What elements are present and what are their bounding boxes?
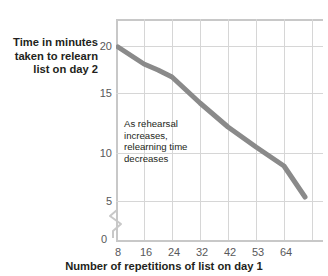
x-axis-title: Number of repetitions of list on day 1 — [0, 260, 328, 272]
y-axis-break-icon — [107, 204, 125, 238]
relearning-time-line — [118, 47, 305, 197]
x-tick-label-16: 16 — [132, 247, 160, 258]
x-tick-label-64: 64 — [272, 247, 300, 258]
x-tick-label-24: 24 — [160, 247, 188, 258]
y-axis-title-line-2: taken to relearn — [4, 50, 98, 64]
y-tick-label-20: 20 — [86, 41, 112, 52]
x-tick-label-53: 53 — [244, 247, 272, 258]
x-tick-label-42: 42 — [216, 247, 244, 258]
data-series-line — [116, 19, 323, 241]
x-tick-label-8: 8 — [104, 247, 132, 258]
chart-container: Time in minutes taken to relearn list on… — [0, 0, 328, 276]
y-axis-title: Time in minutes taken to relearn list on… — [4, 36, 98, 77]
x-tick-label-32: 32 — [188, 247, 216, 258]
y-axis-title-line-3: list on day 2 — [4, 63, 98, 77]
y-tick-label-10: 10 — [86, 148, 112, 159]
y-axis-title-line-1: Time in minutes — [4, 36, 98, 50]
x-axis-line — [116, 240, 323, 242]
y-tick-label-15: 15 — [86, 88, 112, 99]
y-tick-label-0: 0 — [101, 233, 107, 245]
